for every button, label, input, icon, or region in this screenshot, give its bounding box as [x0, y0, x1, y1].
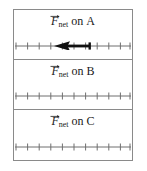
panel-force-on-a[interactable]: Fnet on A [14, 10, 132, 60]
vector-f-symbol-c: F [51, 114, 58, 128]
panel-force-on-c[interactable]: Fnet on C [14, 110, 132, 160]
panel-c-label: Fnet on C [14, 114, 132, 132]
connector-word-b: on [72, 64, 84, 78]
panel-force-on-b[interactable]: Fnet on B [14, 60, 132, 110]
axis-c-ticks [14, 138, 132, 151]
f-letter-b: F [51, 64, 58, 78]
connector-word-c: on [72, 114, 84, 128]
force-diagram-figure: Fnet on A [0, 0, 147, 171]
vector-f-symbol-b: F [51, 64, 58, 78]
vector-f-symbol-a: F [51, 14, 58, 28]
object-name-c: C [87, 114, 95, 128]
axis-c [14, 138, 132, 151]
axis-b-ticks [14, 87, 132, 100]
f-letter-c: F [51, 114, 58, 128]
net-force-vector-arrow-a [14, 37, 132, 50]
panel-b-label: Fnet on B [14, 64, 132, 82]
f-subscript-b: net [59, 70, 69, 79]
panel-a-label: Fnet on A [14, 14, 132, 32]
object-name-a: A [86, 14, 95, 28]
axis-b [14, 87, 132, 100]
f-letter-a: F [51, 14, 58, 28]
panel-stack: Fnet on A [13, 9, 133, 161]
f-subscript-c: net [59, 120, 69, 129]
object-name-b: B [87, 64, 95, 78]
connector-word-a: on [71, 14, 83, 28]
f-subscript-a: net [58, 20, 68, 29]
axis-a [14, 37, 132, 50]
